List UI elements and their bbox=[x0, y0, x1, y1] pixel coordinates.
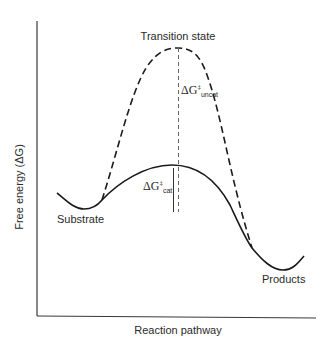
y-axis-label: Free energy (ΔG) bbox=[13, 144, 25, 230]
delta-g-cat-label: ΔG‡cat bbox=[143, 179, 172, 194]
uncatalyzed-curve bbox=[102, 48, 252, 248]
transition-state-label: Transition state bbox=[141, 30, 216, 42]
energy-diagram: Transition state ΔG‡uncat ΔG‡cat Substra… bbox=[0, 0, 334, 351]
delta-g-uncat-label: ΔG‡uncat bbox=[181, 83, 218, 98]
x-axis-label: Reaction pathway bbox=[134, 324, 222, 336]
products-label: Products bbox=[262, 273, 306, 285]
x-axis bbox=[37, 316, 316, 318]
substrate-label: Substrate bbox=[57, 213, 104, 225]
